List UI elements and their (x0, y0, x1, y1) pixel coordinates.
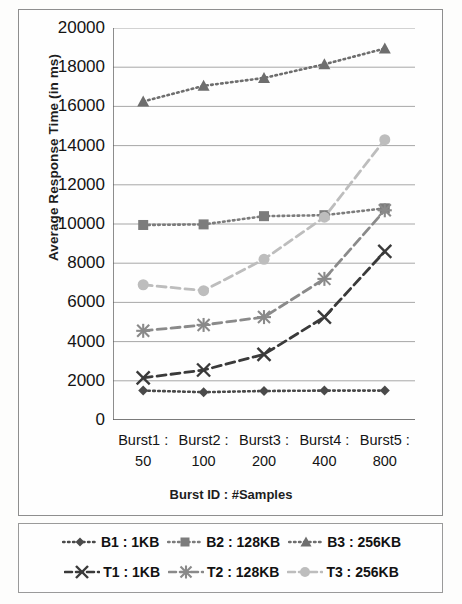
data-point-asterisk (317, 272, 331, 286)
y-tick-label: 14000 (21, 137, 105, 154)
y-tick-label: 18000 (21, 58, 105, 75)
y-tick-label: 2000 (21, 372, 105, 389)
x-tick-burst-id: Burst5 : (342, 432, 428, 448)
y-tick-label: 6000 (21, 293, 105, 310)
legend-marker-cross-icon (64, 564, 100, 580)
y-axis-tick-labels: 2000018000160001400012000100008000600040… (17, 28, 105, 420)
data-point-circle (138, 279, 149, 290)
data-point-cross (378, 245, 391, 258)
data-point-asterisk (257, 310, 271, 324)
legend-item-b1[interactable]: B1 : 1KB (62, 534, 159, 550)
data-point-square (138, 220, 148, 230)
legend-item-b3[interactable]: B3 : 256KB (288, 534, 401, 550)
legend-item-t2[interactable]: T2 : 128KB (168, 564, 279, 580)
legend-row-2: T1 : 1KBT2 : 128KBT3 : 256KB (19, 564, 444, 580)
series-b1 (138, 386, 390, 398)
y-tick-label: 10000 (21, 215, 105, 232)
y-tick-label: 20000 (21, 19, 105, 36)
legend-marker-circle-icon (287, 564, 323, 580)
x-axis-title: Burst ID : #Samples (0, 487, 462, 502)
legend-marker-square-icon (167, 534, 203, 550)
data-point-asterisk (378, 203, 392, 217)
data-point-square (181, 538, 190, 547)
legend-item-t3[interactable]: T3 : 256KB (287, 564, 398, 580)
data-point-cross (318, 311, 331, 324)
data-point-asterisk (180, 566, 193, 579)
legend-label: T1 : 1KB (103, 564, 160, 580)
legend-item-t1[interactable]: T1 : 1KB (64, 564, 160, 580)
data-point-diamond (319, 386, 329, 396)
data-point-diamond (380, 386, 390, 396)
legend-marker-diamond-icon (62, 534, 98, 550)
legend-label: B3 : 256KB (327, 534, 401, 550)
legend-label: T2 : 128KB (207, 564, 279, 580)
data-point-square (199, 219, 209, 229)
series-b2 (138, 203, 390, 230)
series-b3 (137, 43, 391, 107)
data-point-circle (300, 567, 310, 577)
data-point-diamond (259, 386, 269, 396)
legend-label: B1 : 1KB (101, 534, 159, 550)
data-point-square (259, 211, 269, 221)
y-tick-label: 16000 (21, 97, 105, 114)
data-point-circle (198, 285, 209, 296)
data-point-asterisk (197, 318, 211, 332)
legend-label: T3 : 256KB (326, 564, 398, 580)
y-tick-label: 0 (21, 411, 105, 428)
series-canvas (113, 28, 415, 420)
x-tick-label-group: Burst5 :800 (342, 432, 428, 469)
data-point-circle (319, 212, 330, 223)
legend-marker-triangle-icon (288, 534, 324, 550)
data-point-circle (259, 254, 270, 265)
data-point-diamond (199, 387, 209, 397)
data-point-triangle (379, 43, 391, 54)
plot-area (113, 28, 415, 420)
x-axis-tick-labels: Burst1 :50Burst2 :100Burst3 :200Burst4 :… (113, 432, 415, 484)
y-tick-label: 8000 (21, 254, 105, 271)
legend-marker-asterisk-icon (168, 564, 204, 580)
data-point-circle (379, 134, 390, 145)
data-point-diamond (138, 386, 148, 396)
y-tick-label: 12000 (21, 176, 105, 193)
legend-item-b2[interactable]: B2 : 128KB (167, 534, 280, 550)
legend-row-1: B1 : 1KBB2 : 128KBB3 : 256KB (19, 534, 444, 550)
legend-label: B2 : 128KB (206, 534, 280, 550)
x-tick-sample-count: 800 (342, 453, 428, 469)
chart-figure: Average Response Time (in ms) 2000018000… (0, 0, 462, 604)
data-point-asterisk (136, 324, 150, 338)
y-tick-label: 4000 (21, 333, 105, 350)
legend-box: B1 : 1KBB2 : 128KBB3 : 256KB T1 : 1KBT2 … (18, 523, 443, 593)
data-point-diamond (75, 538, 84, 547)
